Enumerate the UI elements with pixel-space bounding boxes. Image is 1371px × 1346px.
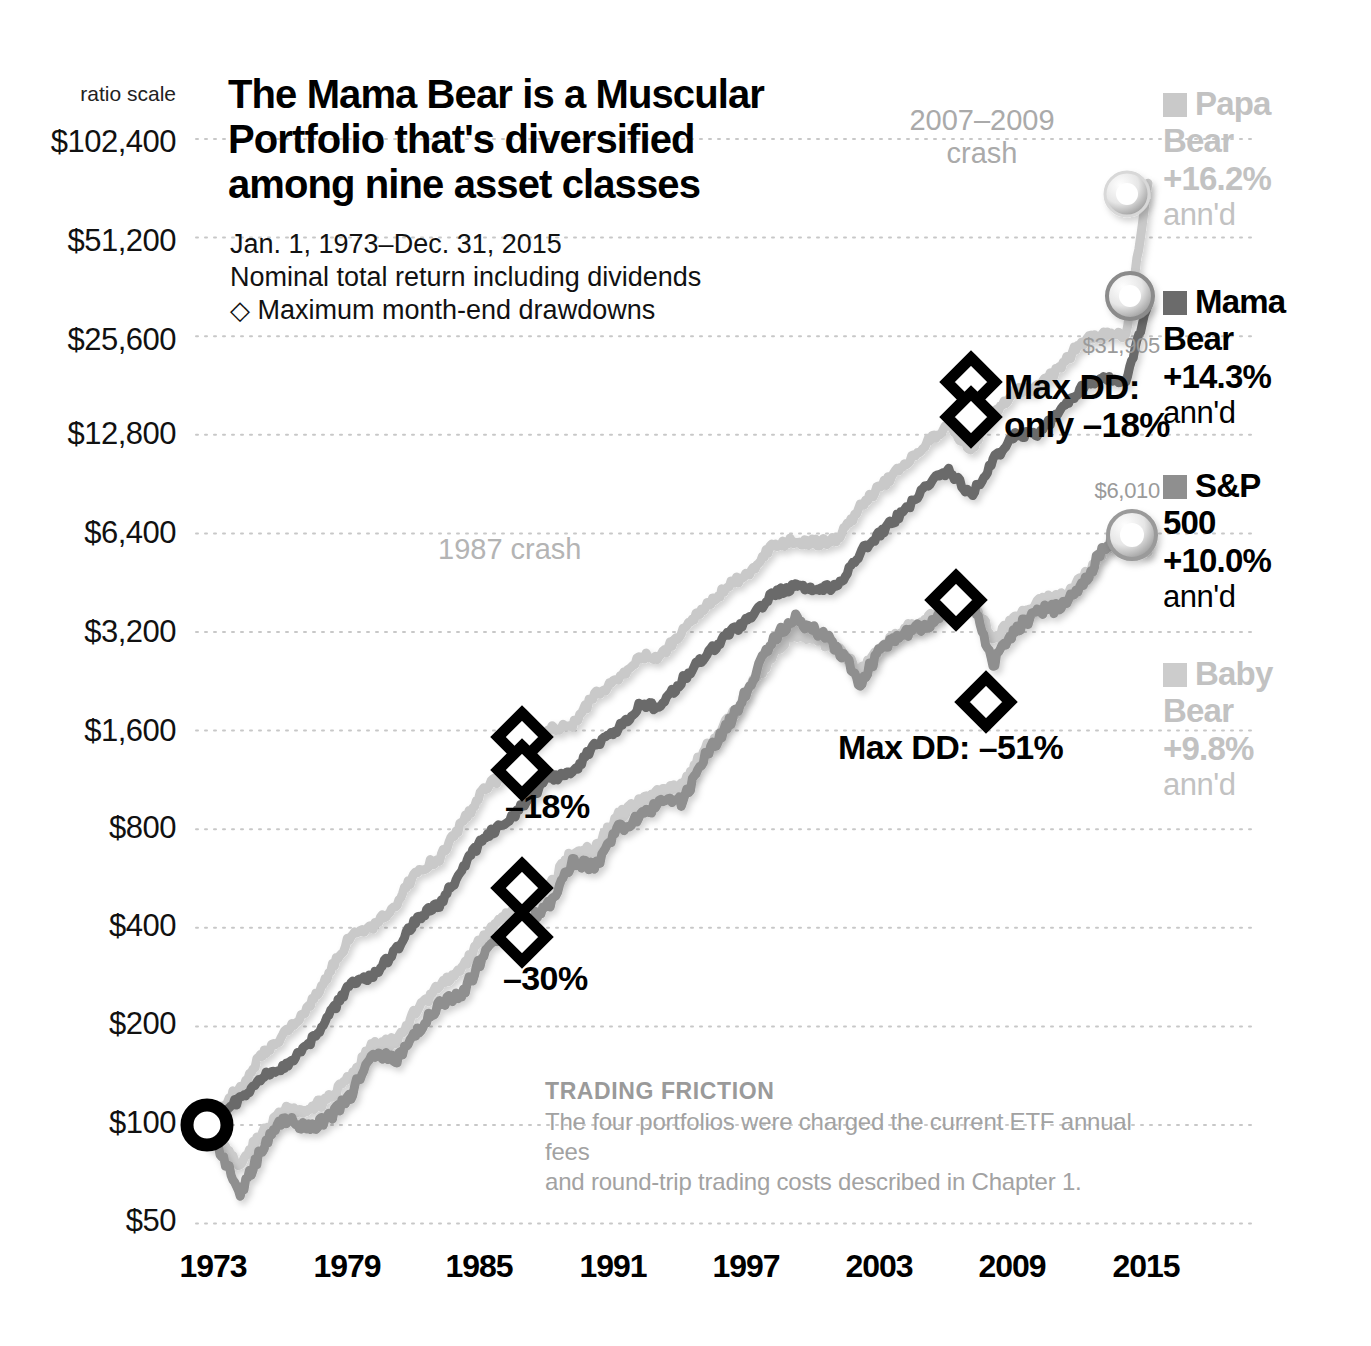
y-tick-label-5: $3,200 — [0, 614, 176, 650]
legend-item-papa-bear[interactable]: Papa Bear +16.2% ann'd — [1163, 85, 1363, 233]
legend-item-mama-bear[interactable]: Mama Bear +14.3% ann'd — [1163, 283, 1363, 431]
subtitle-period: Jan. 1, 1973–Dec. 31, 2015 — [230, 228, 850, 261]
endpoint-ring-mama-bear-hole — [1119, 285, 1141, 307]
ratio-scale-caption: ratio scale — [20, 82, 176, 106]
legend-papa-bear-return: +16.2% — [1163, 160, 1363, 197]
y-tick-label-1: $51,200 — [0, 223, 176, 259]
annotation-1987-crash: 1987 crash — [438, 533, 638, 566]
legend-papa-bear-line2: Bear — [1163, 122, 1363, 159]
trading-friction-note: TRADING FRICTION The four portfolios wer… — [545, 1078, 1165, 1197]
y-tick-label-0: $102,400 — [0, 124, 176, 160]
legend-mama-bear-return: +14.3% — [1163, 358, 1363, 395]
endpoint-label-mama-bear: $31,905 — [1010, 333, 1160, 359]
legend-sp500-line1: S&P — [1195, 467, 1260, 504]
legend-papa-bear-line1: Papa — [1195, 85, 1271, 122]
drawdown-markers — [498, 358, 1010, 961]
legend-swatch-sp500 — [1163, 475, 1187, 499]
friction-line2: and round-trip trading costs described i… — [545, 1167, 1165, 1197]
legend-baby-bear-return: +9.8% — [1163, 730, 1363, 767]
legend-baby-bear-line2: Bear — [1163, 692, 1363, 729]
x-tick-label-1985: 1985 — [414, 1248, 544, 1285]
subtitle-basis: Nominal total return including dividends — [230, 261, 850, 294]
x-tick-label-1973: 1973 — [148, 1248, 278, 1285]
legend-mama-bear-name: Mama Bear — [1163, 283, 1363, 358]
y-tick-label-6: $1,600 — [0, 713, 176, 749]
endpoint-ring-start — [187, 1105, 227, 1145]
y-tick-label-9: $200 — [0, 1006, 176, 1042]
diamond-icon: ◇ — [230, 295, 250, 325]
endpoint-label-sp500: $6,010 — [1010, 478, 1160, 504]
legend-sp500-line2: 500 — [1163, 504, 1363, 541]
friction-heading: TRADING FRICTION — [545, 1078, 1165, 1105]
y-tick-label-10: $100 — [0, 1105, 176, 1141]
annotation-sp500-max-dd: Max DD: –51% — [838, 729, 1063, 766]
friction-line1: The four portfolios were charged the cur… — [545, 1107, 1165, 1167]
legend-item-sp500[interactable]: S&P 500 +10.0% ann'd — [1163, 467, 1363, 615]
annotation-2007-2009-crash: 2007–2009 crash — [872, 104, 1092, 171]
legend-papa-bear-name: Papa Bear — [1163, 85, 1363, 160]
legend-sp500-name: S&P 500 — [1163, 467, 1363, 542]
x-tick-label-1997: 1997 — [681, 1248, 811, 1285]
legend-sp500-return: +10.0% — [1163, 542, 1363, 579]
annotation-2007-crash-line1: 2007–2009 — [872, 104, 1092, 137]
x-tick-label-2003: 2003 — [814, 1248, 944, 1285]
legend-swatch-baby-bear — [1163, 663, 1187, 687]
legend-mama-bear-suffix: ann'd — [1163, 395, 1363, 431]
subtitle-drawdown-key: ◇ Maximum month-end drawdowns — [230, 294, 850, 327]
y-tick-label-8: $400 — [0, 908, 176, 944]
y-tick-label-7: $800 — [0, 810, 176, 846]
diamond-marker-baby-dd-top — [498, 864, 546, 912]
x-tick-label-1979: 1979 — [282, 1248, 412, 1285]
legend-item-baby-bear[interactable]: Baby Bear +9.8% ann'd — [1163, 655, 1363, 803]
annotation-papa-dd: –18% — [505, 788, 590, 825]
x-tick-label-2009: 2009 — [947, 1248, 1077, 1285]
legend-baby-bear-line1: Baby — [1195, 655, 1273, 692]
chart-figure: ratio scale $102,400 $51,200 $25,600 $12… — [0, 0, 1371, 1346]
legend-mama-bear-line2: Bear — [1163, 320, 1363, 357]
x-tick-label-1991: 1991 — [548, 1248, 678, 1285]
y-tick-label-3: $12,800 — [0, 416, 176, 452]
annotation-baby-dd: –30% — [503, 960, 588, 997]
subtitle-drawdown-text: Maximum month-end drawdowns — [258, 295, 656, 325]
page-title: The Mama Bear is a Muscular Portfolio th… — [228, 72, 828, 206]
annotation-mama-dd-line1: Max DD: — [1004, 368, 1170, 406]
subtitle-block: Jan. 1, 1973–Dec. 31, 2015 Nominal total… — [230, 228, 850, 327]
annotation-mama-max-dd: Max DD: only –18% — [1004, 368, 1170, 444]
endpoint-ring-sp500-hole — [1120, 523, 1144, 547]
annotation-2007-crash-line2: crash — [872, 137, 1092, 170]
y-tick-label-2: $25,600 — [0, 322, 176, 358]
series-line-baby-bear — [196, 536, 1148, 1166]
legend-swatch-papa-bear — [1163, 93, 1187, 117]
endpoint-ring-papa-bear-hole — [1116, 183, 1138, 205]
legend-sp500-suffix: ann'd — [1163, 579, 1363, 615]
legend-baby-bear-suffix: ann'd — [1163, 767, 1363, 803]
diamond-marker-sp500-dd-bottom — [962, 678, 1010, 726]
x-tick-label-2015: 2015 — [1081, 1248, 1211, 1285]
y-tick-label-4: $6,400 — [0, 515, 176, 551]
legend-mama-bear-line1: Mama — [1195, 283, 1285, 320]
y-tick-label-11: $50 — [0, 1203, 176, 1239]
legend-baby-bear-name: Baby Bear — [1163, 655, 1363, 730]
legend-swatch-mama-bear — [1163, 291, 1187, 315]
legend-papa-bear-suffix: ann'd — [1163, 197, 1363, 233]
annotation-mama-dd-line2: only –18% — [1004, 406, 1170, 444]
